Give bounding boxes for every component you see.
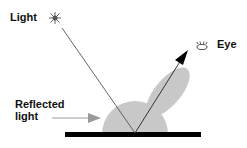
eye-label: Eye (217, 38, 237, 50)
reflection-diagram (0, 0, 247, 148)
light-label: Light (10, 11, 37, 23)
surface (65, 132, 201, 137)
star-burst-icon (49, 12, 61, 24)
reflected-light-label-line1: Reflected (15, 98, 65, 110)
reflected-light-label-line2: light (15, 110, 38, 122)
eye-icon (197, 42, 207, 50)
reflectance-lobe (102, 61, 197, 134)
reflected-light-pointer (52, 113, 101, 123)
